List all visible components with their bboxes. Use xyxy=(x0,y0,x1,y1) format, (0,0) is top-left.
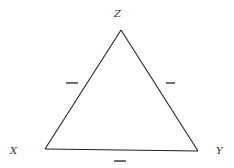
edge-x-z xyxy=(45,30,121,149)
signed-triangle-diagram: ZXY xyxy=(0,0,234,168)
edge-z-y xyxy=(121,30,198,151)
edges xyxy=(45,30,198,151)
vertex-label-x: X xyxy=(9,145,18,156)
edge-x-y xyxy=(45,149,198,151)
vertex-label-y: Y xyxy=(216,145,224,156)
vertex-labels: ZXY xyxy=(9,8,224,156)
vertex-label-z: Z xyxy=(113,8,122,19)
